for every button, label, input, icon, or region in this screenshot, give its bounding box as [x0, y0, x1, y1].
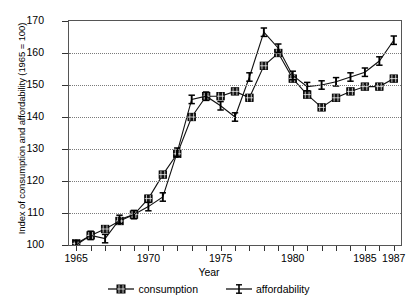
- x-axis-tick-label: 1965: [56, 252, 96, 264]
- x-axis-tick-mark: [293, 246, 294, 251]
- x-axis-tick-label: 1975: [201, 252, 241, 264]
- x-axis-tick-mark: [120, 246, 121, 251]
- x-axis-tick-mark: [76, 246, 77, 251]
- x-axis-tick-label: 1980: [273, 252, 313, 264]
- y-axis-tick-label: 100: [0, 239, 44, 249]
- x-axis-tick-mark: [249, 246, 250, 251]
- x-axis-tick-mark: [134, 246, 135, 251]
- gridline: [69, 181, 401, 182]
- x-axis-tick-mark: [264, 246, 265, 251]
- x-axis-tick-mark: [148, 246, 149, 251]
- series-lines: [69, 21, 401, 245]
- x-axis-tick-mark: [278, 246, 279, 251]
- gridline: [69, 53, 401, 54]
- gridline: [69, 117, 401, 118]
- x-axis-tick-mark: [105, 246, 106, 251]
- x-axis-tick-mark: [307, 246, 308, 251]
- x-axis-tick-mark: [365, 246, 366, 251]
- x-axis-tick-mark: [322, 246, 323, 251]
- plot-area: [68, 20, 402, 246]
- x-axis-tick-mark: [192, 246, 193, 251]
- y-axis-tick-label: 170: [0, 15, 44, 25]
- gridline: [69, 149, 401, 150]
- x-axis-title: Year: [0, 266, 418, 278]
- x-axis-tick-mark: [221, 246, 222, 251]
- y-axis-tick-label: 130: [0, 143, 44, 153]
- x-axis-tick-mark: [350, 246, 351, 251]
- x-axis-tick-mark: [163, 246, 164, 251]
- x-axis-tick-label: 1987: [374, 252, 414, 264]
- legend-label-affordability: affordability: [256, 284, 310, 295]
- x-axis-tick-mark: [206, 246, 207, 251]
- x-axis-tick-mark: [394, 246, 395, 251]
- legend-item-consumption: consumption: [108, 283, 198, 295]
- x-axis-tick-mark: [235, 246, 236, 251]
- filled-square-icon: [108, 283, 134, 295]
- gridline: [69, 85, 401, 86]
- x-axis-tick-mark: [91, 246, 92, 251]
- y-axis-tick-label: 140: [0, 111, 44, 121]
- x-axis-tick-mark: [336, 246, 337, 251]
- error-bar-icon: [226, 283, 252, 295]
- chart-figure: Index of consumption and affordability (…: [0, 0, 418, 305]
- legend-label-consumption: consumption: [138, 284, 198, 295]
- y-axis-tick-label: 150: [0, 79, 44, 89]
- y-axis-tick-label: 120: [0, 175, 44, 185]
- x-axis-tick-mark: [177, 246, 178, 251]
- legend-item-affordability: affordability: [226, 283, 310, 295]
- gridline: [69, 213, 401, 214]
- chart-legend: consumption affordability: [0, 283, 418, 295]
- x-axis-tick-mark: [379, 246, 380, 251]
- x-axis-tick-label: 1970: [128, 252, 168, 264]
- y-axis-tick-label: 160: [0, 47, 44, 57]
- y-axis-tick-label: 110: [0, 207, 44, 217]
